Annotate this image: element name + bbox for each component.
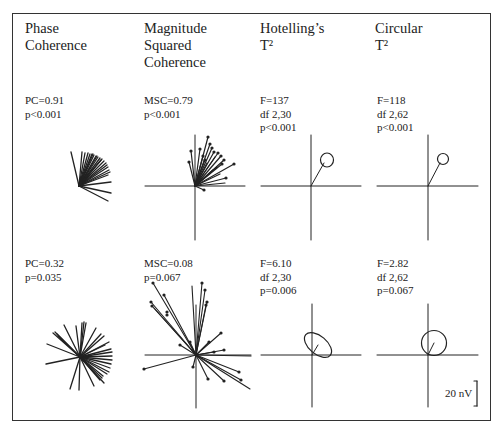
hotelling-plot-row2 [261, 304, 361, 407]
circular-plot-row1 [377, 135, 478, 240]
scale-bar [474, 381, 477, 406]
pc-plot-row2 [46, 322, 112, 390]
scale-bar-label: 20 nV [445, 387, 472, 399]
plots-canvas [0, 0, 501, 434]
msc-plot-row1 [145, 135, 245, 240]
hotelling-plot-row1 [261, 135, 361, 240]
msc-plot-row2 [142, 281, 251, 408]
pc-plot-row1 [71, 152, 111, 201]
